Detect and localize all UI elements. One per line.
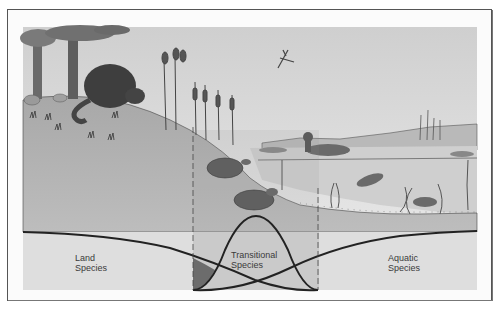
rock — [24, 95, 40, 105]
transitional-species-label: Transitional Species — [231, 250, 277, 270]
label-line: Aquatic — [388, 253, 420, 263]
land-species-label: Land Species — [75, 253, 107, 273]
label-line: Species — [388, 263, 420, 273]
label-line: Transitional — [231, 250, 277, 260]
water-lily-illustration — [450, 151, 474, 157]
label-line: Species — [231, 260, 277, 270]
aquatic-species-label: Aquatic Species — [388, 253, 420, 273]
label-line: Land — [75, 253, 107, 263]
label-line: Species — [75, 263, 107, 273]
rock — [53, 94, 67, 102]
